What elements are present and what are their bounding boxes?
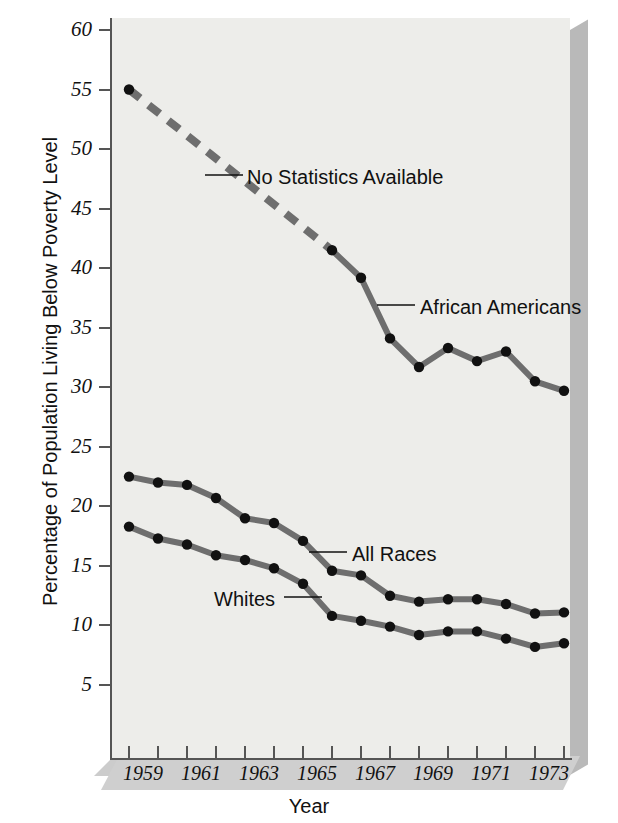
x-tick-label: 1963 [239, 762, 279, 785]
x-tick-mark [505, 746, 507, 758]
y-tick-mark [99, 208, 111, 210]
x-tick-mark [331, 746, 333, 758]
annotation-all-races: All Races [352, 543, 436, 566]
x-tick-mark [215, 746, 217, 758]
y-tick-mark [99, 148, 111, 150]
x-tick-mark [534, 746, 536, 758]
annotation-african-americans: African Americans [420, 296, 581, 319]
x-tick-mark [128, 746, 130, 758]
x-tick-mark [418, 746, 420, 758]
y-tick-mark [99, 624, 111, 626]
y-tick-mark [99, 267, 111, 269]
x-tick-mark [157, 746, 159, 758]
y-tick-mark [99, 446, 111, 448]
y-tick-mark [99, 89, 111, 91]
x-tick-label: 1971 [471, 762, 511, 785]
x-tick-mark [360, 746, 362, 758]
x-tick-label: 1969 [413, 762, 453, 785]
annotation-no-statistics-available: No Statistics Available [247, 166, 443, 189]
x-tick-label: 1965 [297, 762, 337, 785]
x-tick-label: 1959 [123, 762, 163, 785]
x-tick-mark [302, 746, 304, 758]
y-axis-title: Percentage of Population Living Below Po… [39, 22, 62, 722]
x-tick-label: 1967 [355, 762, 395, 785]
x-axis-line [110, 758, 572, 760]
plot-3d-right-shadow [570, 20, 588, 775]
x-tick-mark [186, 746, 188, 758]
chart-canvas: 60555045403530252015105 1959196119631965… [0, 0, 618, 823]
x-tick-mark [389, 746, 391, 758]
plot-area [110, 18, 570, 760]
annotation-whites: Whites [214, 588, 275, 611]
y-tick-mark [99, 684, 111, 686]
y-axis-line [110, 18, 112, 760]
x-tick-label: 1961 [181, 762, 221, 785]
x-tick-mark [244, 746, 246, 758]
x-tick-mark [273, 746, 275, 758]
x-axis-title: Year [0, 795, 618, 818]
x-tick-label: 1973 [529, 762, 569, 785]
x-tick-mark [476, 746, 478, 758]
y-tick-mark [99, 565, 111, 567]
y-tick-mark [99, 505, 111, 507]
y-tick-mark [99, 29, 111, 31]
x-tick-mark [563, 746, 565, 758]
y-tick-mark [99, 327, 111, 329]
x-tick-mark [447, 746, 449, 758]
y-tick-mark [99, 386, 111, 388]
